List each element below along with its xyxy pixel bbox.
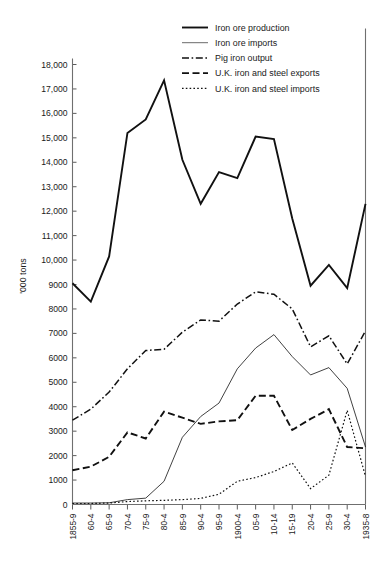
y-tick-label: 3000 [48, 426, 67, 436]
x-tick-label: 25-9 [324, 513, 334, 530]
series-line-4 [73, 410, 366, 503]
series-line-2 [73, 292, 366, 420]
chart-container: 010002000300040005000600070008000900010,… [0, 0, 389, 569]
x-tick-label: 70-4 [123, 513, 133, 530]
x-tick-label: 10-14 [269, 513, 279, 535]
legend-label-1: Iron ore imports [215, 38, 278, 48]
y-axis-title: '000 tons [18, 258, 28, 294]
legend-label-2: Pig iron output [215, 53, 273, 63]
x-tick-label: 20-4 [306, 513, 316, 530]
y-axis-ticks: 010002000300040005000600070008000900010,… [41, 60, 76, 510]
legend-label-3: U.K. iron and steel exports [215, 68, 320, 78]
y-tick-label: 2000 [48, 451, 67, 461]
y-tick-label: 10,000 [41, 255, 68, 265]
y-tick-label: 12,000 [41, 206, 68, 216]
x-tick-label: 80-4 [159, 513, 169, 530]
y-tick-label: 6000 [48, 353, 67, 363]
y-tick-label: 17,000 [41, 84, 68, 94]
line-chart: 010002000300040005000600070008000900010,… [0, 0, 389, 569]
y-tick-label: 0 [63, 500, 68, 510]
y-tick-label: 15,000 [41, 133, 68, 143]
x-tick-label: 1900-4 [233, 513, 243, 539]
x-tick-label: 95-9 [214, 513, 224, 530]
legend-label-0: Iron ore production [215, 23, 290, 33]
x-tick-label: 90-4 [196, 513, 206, 530]
x-tick-label: 85-9 [178, 513, 188, 530]
x-tick-label: 30-4 [342, 513, 352, 530]
y-tick-label: 4000 [48, 402, 67, 412]
chart-legend: Iron ore productionIron ore importsPig i… [182, 23, 320, 94]
x-tick-label: 65-9 [104, 513, 114, 530]
series-line-1 [73, 335, 366, 503]
x-tick-label: 60-4 [86, 513, 96, 530]
y-tick-label: 11,000 [42, 231, 68, 241]
y-tick-label: 16,000 [41, 108, 68, 118]
x-tick-label: 15-19 [287, 513, 297, 535]
y-tick-label: 5000 [48, 377, 67, 387]
axis-lines [73, 29, 366, 505]
y-tick-label: 7000 [48, 328, 67, 338]
x-tick-label: 1935-8 [361, 513, 371, 539]
y-tick-label: 13,000 [41, 182, 68, 192]
series-line-0 [73, 80, 366, 301]
y-tick-label: 8000 [48, 304, 67, 314]
y-tick-label: 9000 [48, 280, 67, 290]
series-line-3 [73, 396, 366, 471]
series-lines [73, 80, 366, 503]
x-tick-label: 1855-9 [68, 513, 78, 539]
y-tick-label: 1000 [48, 475, 67, 485]
y-tick-label: 18,000 [41, 60, 68, 70]
x-tick-label: 05-9 [251, 513, 261, 530]
legend-label-4: U.K. iron and steel imports [215, 84, 320, 94]
x-axis-ticks: 1855-960-465-970-475-980-485-990-495-919… [68, 505, 371, 540]
y-tick-label: 14,000 [41, 157, 68, 167]
x-tick-label: 75-9 [141, 513, 151, 530]
